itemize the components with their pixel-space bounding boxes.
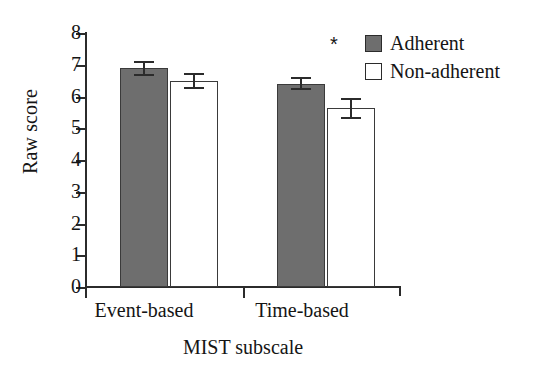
- bar-nonadherent-event-based[interactable]: [170, 81, 218, 287]
- error-bar-nonadherent-time-based: [341, 98, 361, 119]
- legend-swatch-filled-square-icon: [365, 35, 382, 52]
- y-tick-label-5: 5: [71, 116, 81, 138]
- bar-chart-figure: 8 7 6 5 4 3 2 1 0: [0, 0, 546, 373]
- y-tick-label-2: 2: [71, 212, 81, 234]
- chart-legend: Adherent Non-adherent: [365, 30, 545, 86]
- legend-item-nonadherent[interactable]: Non-adherent: [365, 58, 545, 84]
- significance-asterisk: *: [330, 34, 338, 54]
- y-tick-label-1: 1: [71, 243, 81, 265]
- legend-label-nonadherent: Non-adherent: [390, 60, 500, 82]
- y-tick-label-3: 3: [71, 180, 81, 202]
- error-bar-adherent-event-based: [134, 61, 154, 76]
- x-tick-label-event-based: Event-based: [84, 299, 204, 322]
- y-tick-label-4: 4: [71, 148, 81, 170]
- bar-nonadherent-time-based[interactable]: [327, 108, 375, 287]
- legend-item-adherent[interactable]: Adherent: [365, 30, 545, 56]
- y-tick-label-6: 6: [71, 85, 81, 107]
- y-tick-label-8: 8: [71, 21, 81, 43]
- x-axis-tick-middle: [243, 287, 245, 298]
- y-axis-line: [85, 32, 87, 288]
- x-axis-title: MIST subscale: [85, 336, 401, 359]
- y-axis-title: Raw score: [19, 52, 42, 212]
- legend-label-adherent: Adherent: [390, 32, 464, 54]
- x-axis-tick-left: [85, 287, 87, 298]
- x-tick-label-time-based: Time-based: [247, 299, 357, 322]
- bar-adherent-time-based[interactable]: [277, 84, 325, 287]
- error-bar-adherent-time-based: [291, 77, 311, 90]
- bar-adherent-event-based[interactable]: [120, 68, 168, 287]
- y-tick-label-0: 0: [71, 275, 81, 297]
- y-tick-label-7: 7: [71, 53, 81, 75]
- x-axis-end-tick: [399, 286, 401, 296]
- error-bar-nonadherent-event-based: [184, 73, 204, 89]
- legend-swatch-hollow-square-icon: [365, 63, 382, 80]
